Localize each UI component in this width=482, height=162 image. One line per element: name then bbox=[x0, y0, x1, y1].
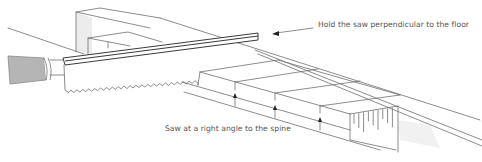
front-board bbox=[182, 60, 400, 150]
saw-handle bbox=[8, 56, 64, 84]
saw-spine bbox=[63, 33, 258, 65]
label-hold-perpendicular: Hold the saw perpendicular to the floor bbox=[318, 20, 469, 29]
saw-blade-teeth bbox=[64, 65, 200, 93]
label-right-angle: Saw at a right angle to the spine bbox=[165, 124, 291, 133]
pointer-arrow bbox=[272, 28, 313, 36]
